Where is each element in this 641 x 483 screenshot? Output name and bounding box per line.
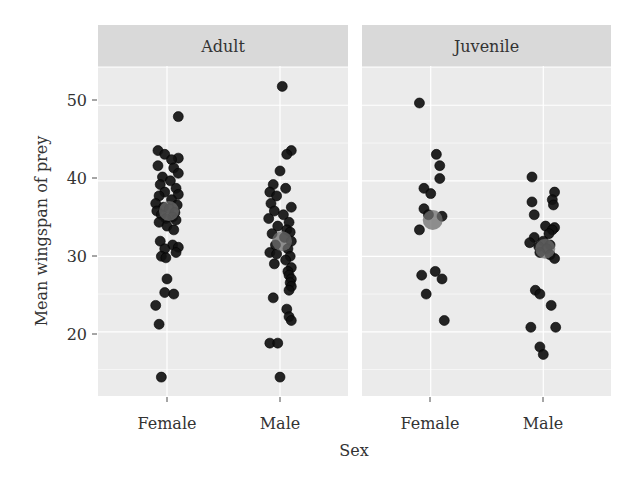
data-point — [153, 161, 163, 171]
data-point — [286, 315, 296, 325]
strip-label-juvenile: Juvenile — [452, 37, 519, 56]
data-point — [171, 248, 181, 258]
data-point — [273, 338, 283, 348]
data-point — [161, 253, 171, 263]
wingspan-jitter-chart: Adult Juvenile 50 40 30 20 Mean wingspan… — [0, 0, 641, 483]
facet-adult: Adult — [98, 25, 348, 396]
x-tick-adult-female: Female — [138, 414, 197, 433]
y-axis-title: Mean wingspan of prey — [32, 136, 51, 327]
data-point — [421, 289, 431, 299]
data-point — [151, 300, 161, 310]
data-point — [264, 214, 274, 224]
data-point — [173, 112, 183, 122]
strip-label-adult: Adult — [200, 37, 245, 56]
data-point — [535, 289, 545, 299]
data-point — [546, 300, 556, 310]
mean-point — [423, 210, 443, 230]
x-tick-juvenile-female: Female — [401, 414, 460, 433]
data-point — [527, 197, 537, 207]
data-point — [173, 168, 183, 178]
data-point — [275, 372, 285, 382]
y-tick-20: 20 — [67, 325, 87, 344]
data-point — [527, 172, 537, 182]
data-point — [435, 174, 445, 184]
data-point — [426, 189, 436, 199]
data-point — [417, 270, 427, 280]
data-point — [169, 289, 179, 299]
y-tick-40: 40 — [67, 169, 87, 188]
panel-adult — [98, 66, 348, 396]
data-point — [439, 315, 449, 325]
data-point — [526, 322, 536, 332]
mean-point — [535, 239, 555, 259]
data-point — [525, 238, 535, 248]
facet-juvenile: Juvenile — [362, 25, 611, 396]
x-axis-title: Sex — [339, 441, 368, 460]
data-point — [156, 372, 166, 382]
data-point — [437, 274, 447, 284]
data-point — [162, 274, 172, 284]
data-point — [435, 161, 445, 171]
data-point — [269, 259, 279, 269]
data-point — [281, 183, 291, 193]
y-tick-30: 30 — [67, 247, 87, 266]
data-point — [286, 202, 296, 212]
x-axis: Female Male Female Male Sex — [138, 397, 564, 460]
data-point — [169, 225, 179, 235]
data-point — [431, 149, 441, 159]
y-tick-50: 50 — [67, 91, 87, 110]
data-point — [551, 322, 561, 332]
data-point — [548, 200, 558, 210]
data-point — [284, 285, 294, 295]
data-point — [414, 98, 424, 108]
mean-point — [272, 231, 292, 251]
data-point — [277, 81, 287, 91]
data-point — [414, 225, 424, 235]
data-point — [154, 319, 164, 329]
data-point — [529, 210, 539, 220]
data-point — [268, 293, 278, 303]
data-point — [275, 166, 285, 176]
y-axis: 50 40 30 20 Mean wingspan of prey — [32, 91, 97, 344]
data-point — [160, 288, 170, 298]
panel-juvenile — [362, 66, 611, 396]
mean-point — [159, 201, 179, 221]
x-tick-adult-male: Male — [260, 414, 301, 433]
data-point — [282, 149, 292, 159]
x-tick-juvenile-male: Male — [523, 414, 564, 433]
data-point — [538, 349, 548, 359]
